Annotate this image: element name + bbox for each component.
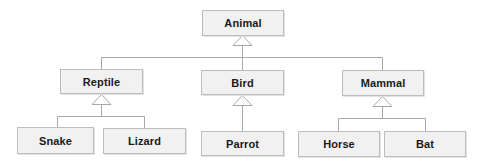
class-label: Horse: [323, 138, 355, 150]
generalization-arrow-icon: [233, 36, 252, 46]
class-box-bat: Bat: [384, 131, 466, 157]
class-box-lizard: Lizard: [103, 128, 186, 154]
class-box-snake: Snake: [17, 127, 94, 154]
class-label: Bat: [416, 138, 434, 150]
generalization-arrow-icon: [233, 96, 252, 106]
class-box-mammal: Mammal: [342, 70, 424, 96]
class-label: Animal: [224, 17, 261, 29]
class-box-reptile: Reptile: [60, 69, 143, 94]
generalization-arrow-icon: [92, 95, 111, 105]
class-box-horse: Horse: [298, 131, 380, 157]
class-label: Mammal: [361, 77, 406, 89]
class-box-bird: Bird: [201, 70, 284, 95]
class-label: Lizard: [128, 135, 161, 147]
inheritance-diagram: Animal Reptile Bird Mammal Snake Lizard …: [0, 0, 482, 165]
class-label: Reptile: [83, 76, 120, 88]
class-label: Snake: [39, 135, 72, 147]
generalization-arrow-icon: [373, 97, 392, 107]
class-box-parrot: Parrot: [201, 131, 284, 156]
class-label: Parrot: [226, 138, 259, 150]
class-label: Bird: [231, 77, 253, 89]
class-box-animal: Animal: [202, 10, 284, 36]
